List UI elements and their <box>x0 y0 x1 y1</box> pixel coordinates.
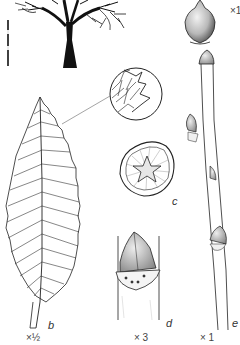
botanical-plate: ×1 b ×½ c d × 3 e × 1 <box>0 0 240 345</box>
twig-panel-letter: e <box>232 318 238 329</box>
leaf-illustration <box>6 97 80 328</box>
fruit-scale-label: ×1 <box>230 6 240 16</box>
illustration-canvas <box>0 0 240 345</box>
cross-section-panel-letter: c <box>172 196 178 207</box>
tree-silhouette-icon <box>15 0 126 68</box>
leaf-panel-letter: b <box>48 320 54 331</box>
bud-scale-label: × 3 <box>134 333 148 343</box>
twig-illustration <box>186 50 228 330</box>
leaf-margin-detail <box>62 68 162 124</box>
twig-scale-label: × 1 <box>200 333 214 343</box>
leaf-scale-label: ×½ <box>26 333 40 343</box>
nut-illustration <box>185 0 215 44</box>
bud-detail-illustration <box>116 232 160 320</box>
bud-panel-letter: d <box>166 318 172 329</box>
twig-cross-section <box>120 142 174 196</box>
